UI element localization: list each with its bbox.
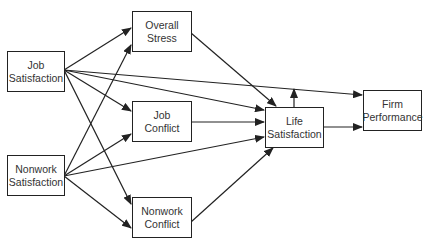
edge-jobsat-firmperf [64, 70, 362, 95]
node-life-satisfaction: Life Satisfaction [265, 107, 324, 148]
node-label-line2: Conflict [144, 122, 179, 135]
node-firm-performance: Firm Performance [363, 90, 422, 131]
node-label-line1: Nonwork [9, 163, 63, 176]
node-label-line1: Job [9, 59, 63, 72]
edges-layer [0, 0, 425, 246]
node-label-line1: Firm [362, 98, 422, 111]
edge-overallstress-lifesat [191, 33, 276, 106]
node-label-line2: Satisfaction [9, 72, 63, 85]
node-nonwork-conflict: Nonwork Conflict [132, 197, 192, 238]
node-label-line2: Satisfaction [9, 176, 63, 189]
edge-nonworksat-overallstress [64, 45, 131, 176]
node-overall-stress: Overall Stress [132, 11, 192, 52]
edge-nonworkconflict-lifesat [191, 148, 273, 222]
node-job-conflict: Job Conflict [132, 101, 192, 142]
node-label-line2: Satisfaction [267, 128, 321, 141]
node-label-line1: Job [144, 109, 179, 122]
node-job-satisfaction: Job Satisfaction [7, 51, 65, 92]
node-label-line2: Performance [362, 111, 422, 124]
node-label-line2: Conflict [141, 218, 182, 231]
node-label-line1: Nonwork [141, 205, 182, 218]
node-label-line2: Stress [145, 32, 178, 45]
node-nonwork-satisfaction: Nonwork Satisfaction [7, 155, 65, 196]
node-label-line1: Life [267, 115, 321, 128]
node-label-line1: Overall [145, 19, 178, 32]
